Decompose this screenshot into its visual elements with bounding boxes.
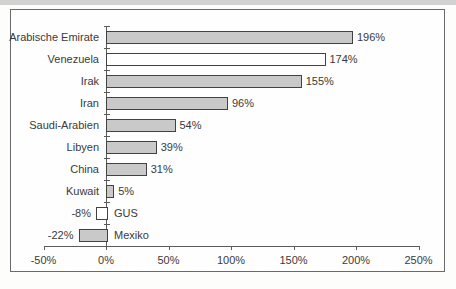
value-label: 155%: [306, 70, 334, 92]
value-label: 39%: [161, 136, 183, 158]
chart-frame: -50%0%50%100%150%200%250%Arabische Emira…: [10, 9, 445, 272]
bar-gus: [96, 207, 108, 220]
bar-arabische-emirate: [106, 31, 353, 44]
value-label: 5%: [118, 180, 134, 202]
x-axis-tick: [106, 246, 107, 250]
category-label: Saudi-Arabien: [29, 114, 99, 136]
category-label: Arabische Emirate: [9, 26, 99, 48]
bar-iran: [106, 97, 228, 110]
y-axis-tick: [104, 26, 110, 27]
scanned-chart-page: -50%0%50%100%150%200%250%Arabische Emira…: [0, 0, 456, 289]
x-axis-tick-label: 150%: [270, 253, 318, 267]
bar-irak: [106, 75, 302, 88]
bar-china: [106, 163, 147, 176]
category-label: Libyen: [67, 136, 99, 158]
y-axis-tick: [104, 92, 110, 93]
category-label: Irak: [81, 70, 99, 92]
x-axis-tick: [294, 246, 295, 250]
bar-venezuela: [106, 53, 326, 66]
bar-saudi-arabien: [106, 119, 176, 132]
bar-kuwait: [106, 185, 114, 198]
x-axis-tick: [356, 246, 357, 250]
category-label: Venezuela: [48, 48, 99, 70]
x-axis-tick: [44, 246, 45, 250]
bar-libyen: [106, 141, 157, 154]
y-axis-tick: [104, 48, 110, 49]
y-axis-tick: [104, 136, 110, 137]
x-axis-tick-label: 250%: [395, 253, 443, 267]
category-label: Mexiko: [114, 224, 149, 246]
value-label: -8%: [71, 202, 91, 224]
y-axis-tick: [104, 202, 110, 203]
value-label: 31%: [151, 158, 173, 180]
y-axis-tick: [104, 70, 110, 71]
bar-mexiko: [79, 229, 109, 242]
category-label: Iran: [80, 92, 99, 114]
scan-edge-artifact: [0, 0, 456, 5]
category-label: Kuwait: [66, 180, 99, 202]
value-label: 196%: [357, 26, 385, 48]
x-axis-tick-label: 50%: [145, 253, 193, 267]
x-axis-tick-label: 0%: [82, 253, 130, 267]
value-label: 54%: [180, 114, 202, 136]
y-axis-tick: [104, 180, 110, 181]
x-axis-tick-label: 100%: [207, 253, 255, 267]
category-label: China: [70, 158, 99, 180]
y-axis-tick: [104, 224, 110, 225]
y-axis-tick: [104, 158, 110, 159]
x-axis-tick: [231, 246, 232, 250]
bar-chart: -50%0%50%100%150%200%250%Arabische Emira…: [11, 10, 444, 271]
y-axis-tick: [104, 114, 110, 115]
category-label: GUS: [114, 202, 138, 224]
x-axis-tick-label: 200%: [332, 253, 380, 267]
x-axis-tick-label: -50%: [20, 253, 68, 267]
value-label: 96%: [232, 92, 254, 114]
x-axis-tick: [169, 246, 170, 250]
value-label: 174%: [330, 48, 358, 70]
value-label: -22%: [48, 224, 74, 246]
x-axis-tick: [419, 246, 420, 250]
